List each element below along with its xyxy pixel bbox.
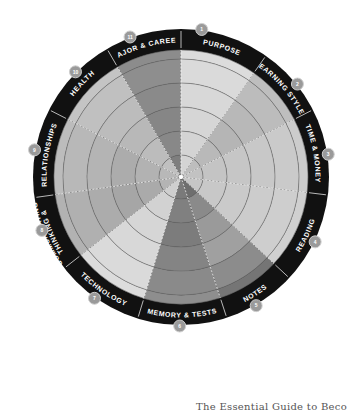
- svg-text:4: 4: [314, 239, 317, 245]
- badge-9: 9: [28, 144, 40, 156]
- badge-4: 4: [309, 236, 321, 248]
- footer-book-title: The Essential Guide to Beco: [196, 401, 347, 412]
- center-dot: [179, 175, 183, 179]
- badge-6: 6: [174, 320, 186, 332]
- svg-text:11: 11: [127, 34, 133, 40]
- svg-text:5: 5: [255, 302, 258, 308]
- svg-text:7: 7: [93, 295, 96, 301]
- badge-8: 8: [36, 224, 48, 236]
- svg-text:10: 10: [73, 69, 79, 75]
- badge-11: 11: [124, 31, 136, 43]
- segment-band: [154, 244, 211, 271]
- svg-text:9: 9: [33, 147, 36, 153]
- badge-7: 7: [88, 292, 100, 304]
- svg-text:8: 8: [41, 227, 44, 233]
- badge-1: 1: [196, 23, 208, 35]
- life-wheel-diagram: PURPOSELEARNING STYLESTIME & MONEYREADIN…: [0, 0, 351, 415]
- svg-text:6: 6: [178, 323, 181, 329]
- badge-10: 10: [69, 66, 81, 78]
- svg-text:3: 3: [327, 151, 330, 157]
- badge-3: 3: [322, 148, 334, 160]
- badge-2: 2: [291, 78, 303, 90]
- svg-text:1: 1: [200, 26, 203, 32]
- badge-5: 5: [250, 300, 262, 312]
- svg-text:2: 2: [296, 81, 299, 87]
